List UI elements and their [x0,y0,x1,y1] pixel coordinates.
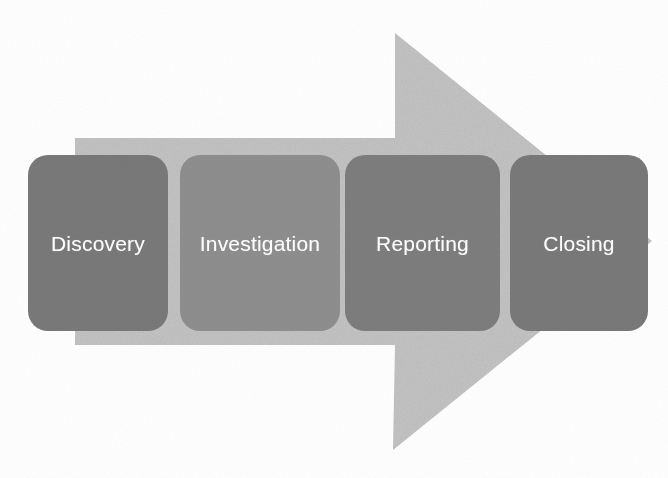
stage-box-row: Discovery Investigation Reporting Closin… [0,155,668,331]
stage-label-discovery: Discovery [51,233,145,254]
stage-box-investigation[interactable]: Investigation [180,155,340,331]
stage-label-investigation: Investigation [200,233,321,254]
process-flow-diagram: Discovery Investigation Reporting Closin… [0,0,668,478]
stage-box-closing[interactable]: Closing [510,155,648,331]
stage-label-reporting: Reporting [376,233,469,254]
stage-label-closing: Closing [543,233,614,254]
stage-box-discovery[interactable]: Discovery [28,155,168,331]
stage-box-reporting[interactable]: Reporting [345,155,500,331]
